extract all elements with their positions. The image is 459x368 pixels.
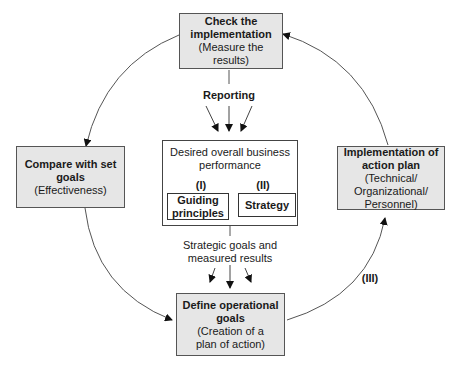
center-heading-line: Desired overall business	[163, 146, 297, 159]
node-title: Define operational	[183, 299, 279, 312]
node-define-operational-goals: Define operational goals (Creation of a …	[176, 293, 285, 356]
guiding-line: principles	[168, 207, 228, 220]
node-title: Implementation of	[344, 146, 439, 159]
strategy-label: Strategy	[239, 199, 295, 212]
node-check-implementation: Check the implementation (Measure the re…	[179, 13, 283, 69]
roman-numeral-1: (I)	[191, 179, 211, 192]
strategic-line: Strategic goals and	[168, 239, 292, 252]
label-reporting: Reporting	[194, 89, 264, 102]
center-box: Desired overall business performance (I)…	[162, 140, 298, 226]
node-subtitle: Personnel)	[364, 198, 417, 211]
node-title: implementation	[190, 28, 271, 41]
node-subtitle: results)	[213, 54, 249, 67]
node-title: Compare with set	[25, 158, 117, 171]
node-implementation-action-plan: Implementation of action plan (Technical…	[337, 146, 445, 210]
center-heading: Desired overall business performance	[163, 146, 297, 172]
roman-numeral-3: (III)	[358, 272, 382, 285]
node-subtitle: (Technical/	[365, 172, 418, 185]
guiding-principles-box: Guiding principles	[167, 193, 229, 220]
node-title: action plan	[362, 159, 420, 172]
strategy-box: Strategy	[238, 193, 296, 217]
node-subtitle: Organizational/	[354, 185, 428, 198]
node-title: goals	[216, 312, 245, 325]
node-title: Check the	[205, 15, 258, 28]
roman-numeral-2: (II)	[251, 179, 275, 192]
center-heading-line: performance	[163, 159, 297, 172]
node-subtitle: plan of action)	[196, 338, 265, 351]
node-subtitle: (Creation of a	[197, 325, 264, 338]
node-compare-goals: Compare with set goals (Effectiveness)	[16, 146, 125, 208]
strategic-line: measured results	[168, 252, 292, 265]
label-strategic-goals: Strategic goals and measured results	[168, 239, 292, 265]
node-title: goals	[56, 171, 85, 184]
guiding-line: Guiding	[168, 194, 228, 207]
node-subtitle: (Effectiveness)	[34, 184, 107, 197]
node-subtitle: (Measure the	[199, 41, 264, 54]
